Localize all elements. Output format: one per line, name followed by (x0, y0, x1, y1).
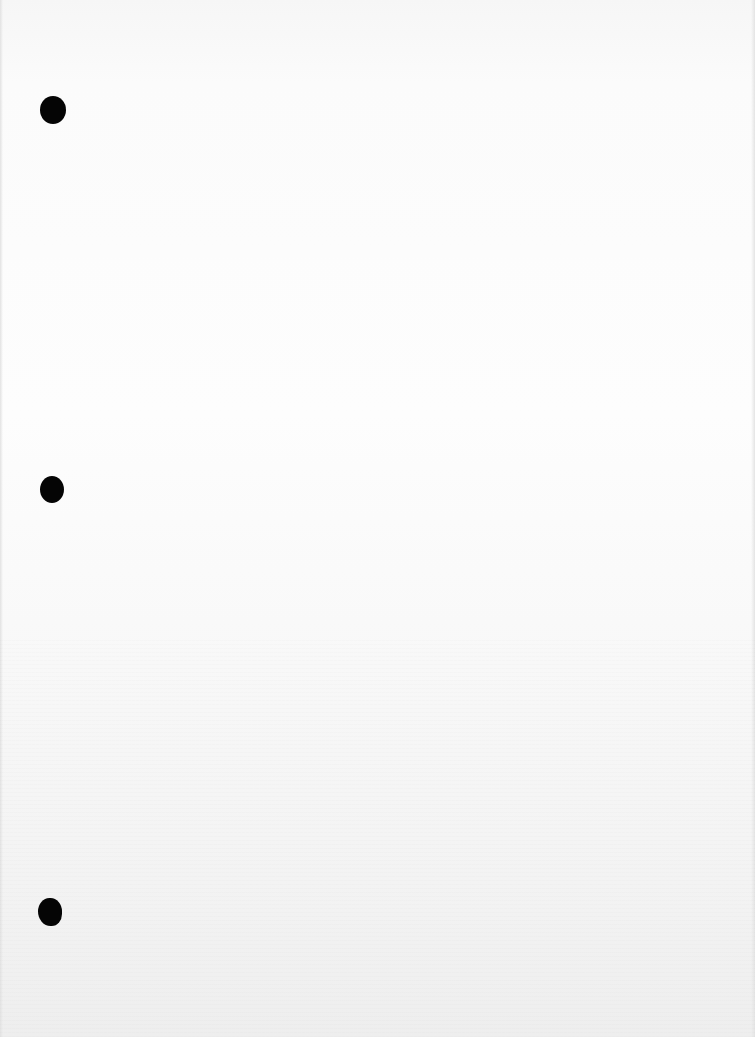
scanner-noise (0, 640, 755, 1037)
punch-hole-top (40, 96, 66, 124)
punch-hole-middle (40, 476, 64, 503)
scanned-page (0, 0, 755, 1037)
punch-hole-bottom (38, 898, 62, 926)
